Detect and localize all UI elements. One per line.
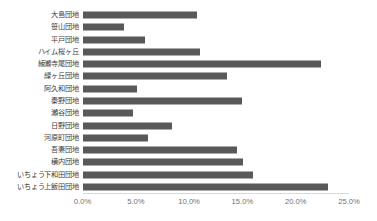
bar-track [83,134,350,141]
category-label-row: 緑ヶ丘団地 [0,70,79,82]
bar-track [83,48,350,55]
bar-row [83,132,350,144]
x-tick-label: 5.0% [127,196,144,208]
bar-track [83,97,350,104]
bar-track [83,171,350,178]
x-axis-tick-labels: 0.0%5.0%10.0%15.0%20.0%25.0% [83,196,350,210]
bar [83,159,244,166]
category-label-row: 大島団地 [0,9,79,21]
bar-row [83,156,350,168]
bar [83,85,137,92]
bar-track [83,61,350,68]
category-label-row: 綾瀬寺尾団地 [0,58,79,70]
category-label: 河原町団地 [44,134,79,142]
bar-track [83,12,350,19]
bar-track [83,36,350,43]
x-tick-label: 25.0% [338,196,360,208]
category-label-row: 河原町団地 [0,132,79,144]
category-label: 瀬谷団地 [51,109,79,117]
category-label-row: 吾妻団地 [0,144,79,156]
category-label: 日野団地 [51,122,79,130]
category-label-row: いちょう下和田団地 [0,168,79,180]
category-label: 秦野団地 [51,97,79,105]
bar-track [83,183,350,190]
plot-area [83,9,350,193]
category-label: 綾瀬寺尾団地 [38,60,79,68]
category-label: 大島団地 [51,11,79,19]
bar-row [83,168,350,180]
bar-row [83,107,350,119]
category-label: 阿久和団地 [44,85,79,93]
category-label-row: 日野団地 [0,119,79,131]
category-label-row: 秦野団地 [0,95,79,107]
category-label: ハイム桜ヶ丘 [38,48,79,56]
bar [83,110,133,117]
category-axis-labels: 大島団地笹山団地平戸団地ハイム桜ヶ丘綾瀬寺尾団地緑ヶ丘団地阿久和団地秦野団地瀬谷… [0,9,79,193]
bar-row [83,9,350,21]
bar [83,48,200,55]
bar-row [83,95,350,107]
category-label: いちょう上飯田団地 [17,183,79,191]
bar [83,73,228,80]
bar-row [83,181,350,193]
category-label-row: 笹山団地 [0,21,79,33]
category-label: 笹山団地 [51,23,79,31]
bar-row [83,46,350,58]
category-label-row: 平戸団地 [0,34,79,46]
bar [83,97,243,104]
bar-track [83,122,350,129]
category-label-row: いちょう上飯田団地 [0,181,79,193]
category-label: 横内団地 [51,158,79,166]
bar [83,61,322,68]
bar-track [83,159,350,166]
x-tick-label: 0.0% [74,196,91,208]
horizontal-bar-chart: 大島団地笹山団地平戸団地ハイム桜ヶ丘綾瀬寺尾団地緑ヶ丘団地阿久和団地秦野団地瀬谷… [0,0,377,221]
bar-row [83,34,350,46]
category-label: 吾妻団地 [51,146,79,154]
category-label: 平戸団地 [51,36,79,44]
category-label-row: 横内団地 [0,156,79,168]
x-tick-label: 10.0% [178,196,200,208]
bar-track [83,110,350,117]
bar [83,171,254,178]
bar [83,12,197,19]
bar-row [83,58,350,70]
category-label-row: 阿久和団地 [0,83,79,95]
bar-track [83,73,350,80]
x-tick-label: 20.0% [285,196,307,208]
bar-track [83,85,350,92]
bar-row [83,21,350,33]
bar-row [83,119,350,131]
bar-track [83,24,350,31]
bar-row [83,144,350,156]
category-label-row: 瀬谷団地 [0,107,79,119]
bar [83,24,125,31]
x-tick-label: 15.0% [232,196,254,208]
bar-row [83,83,350,95]
bar-row [83,70,350,82]
category-label-row: ハイム桜ヶ丘 [0,46,79,58]
bar [83,122,173,129]
bar [83,183,328,190]
bar [83,134,148,141]
x-axis-line [83,193,350,194]
bar-track [83,147,350,154]
bar [83,147,238,154]
bar [83,36,146,43]
category-label: 緑ヶ丘団地 [44,72,79,80]
category-label: いちょう下和田団地 [17,171,79,179]
